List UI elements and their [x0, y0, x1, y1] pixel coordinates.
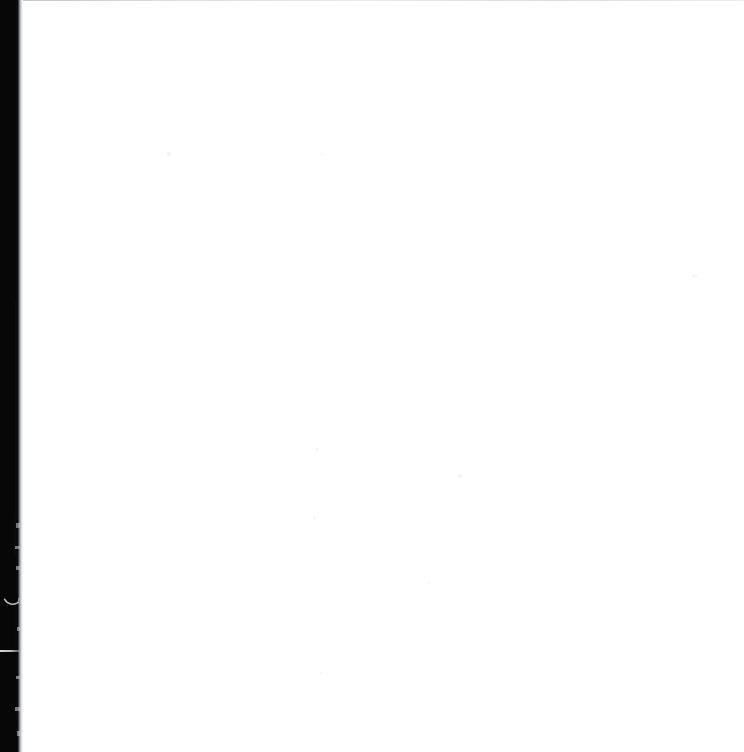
gutter-nick	[15, 707, 20, 711]
dust-speck	[320, 672, 323, 675]
dust-speck	[692, 274, 697, 278]
dust-speck	[313, 516, 316, 520]
gutter-nick	[16, 566, 20, 570]
scanned-page: Blank scanned document page	[0, 0, 744, 752]
dust-speck	[167, 152, 171, 156]
dust-speck	[321, 153, 323, 155]
page-curl-hook-icon	[3, 596, 21, 607]
gutter-nick	[17, 731, 20, 736]
gutter-nick	[17, 627, 20, 631]
gutter-nick	[16, 523, 20, 528]
gutter-nick	[16, 676, 20, 679]
horizontal-light-streak	[0, 650, 21, 652]
top-edge-hairline	[22, 0, 744, 1]
dust-speck	[458, 474, 462, 478]
paper-content-area	[22, 0, 744, 752]
gutter-nick	[15, 546, 20, 549]
dust-speck	[315, 448, 318, 451]
gutter-fringe	[18, 0, 23, 752]
dust-speck	[427, 581, 430, 584]
